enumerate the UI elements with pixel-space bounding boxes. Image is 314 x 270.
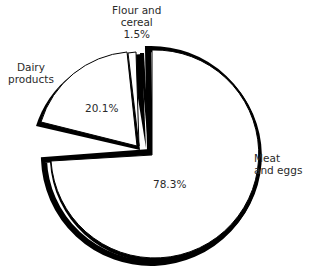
pie-chart — [0, 0, 314, 270]
label-meat-and-eggs: Meat and eggs — [254, 152, 302, 176]
label-text: products — [8, 73, 54, 85]
value-label-dairy: 20.1% — [85, 102, 118, 114]
label-flour-and-cereal: Flour and cereal 1.5% — [112, 4, 161, 40]
label-dairy-products: Dairy products — [8, 61, 54, 85]
label-text: cereal — [112, 16, 161, 28]
label-text: Dairy — [8, 61, 54, 73]
value-label-meat: 78.3% — [153, 178, 186, 190]
value-label: 1.5% — [112, 28, 161, 40]
label-text: Meat — [254, 152, 302, 164]
label-text: Flour and — [112, 4, 161, 16]
label-text: and eggs — [254, 164, 302, 176]
